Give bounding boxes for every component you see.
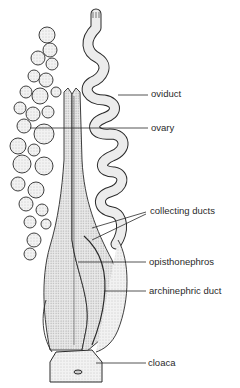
- cloaca-illustration: [50, 350, 102, 382]
- label-oviduct: oviduct: [151, 89, 181, 99]
- label-ovary: ovary: [151, 123, 174, 133]
- label-collecting-ducts: collecting ducts: [150, 206, 215, 216]
- ovary-illustration: [10, 27, 61, 260]
- label-archinephric-duct: archinephric duct: [149, 286, 221, 296]
- urogenital-diagram: [0, 0, 240, 388]
- label-cloaca: cloaca: [148, 358, 175, 368]
- label-opisthonephros: opisthonephros: [149, 257, 214, 267]
